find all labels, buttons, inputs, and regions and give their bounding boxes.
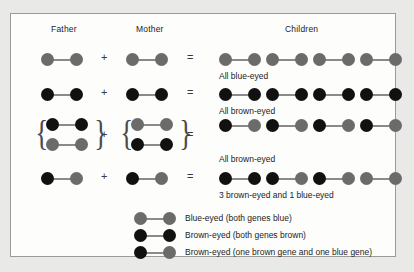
allele-brown-left (219, 88, 232, 101)
child-gene-pair (360, 172, 402, 185)
gene-connector (371, 125, 391, 127)
allele-brown-left (313, 119, 326, 132)
allele-brown-right (160, 138, 173, 151)
allele-blue-right (75, 138, 88, 151)
allele-blue-left (41, 53, 54, 66)
legend-item-label: Brown-eyed (both genes brown) (185, 230, 306, 240)
mother-gene-pair (126, 172, 168, 185)
gene-connector (230, 125, 250, 127)
allele-blue-right (70, 172, 83, 185)
child-gene-pair (360, 119, 402, 132)
figure-frame: Father Mother Children +=All blue-eyed+=… (10, 13, 396, 257)
allele-blue-left (46, 138, 59, 151)
allele-blue-left (360, 172, 373, 185)
allele-blue-right (70, 53, 83, 66)
allele-brown-left (131, 138, 144, 151)
allele-blue-right (295, 53, 308, 66)
allele-blue-right (389, 53, 402, 66)
child-gene-pair (313, 119, 355, 132)
row-caption: All brown-eyed (219, 106, 275, 116)
allele-brown-left (313, 172, 326, 185)
child-gene-pair (360, 88, 402, 101)
child-gene-pair (266, 172, 308, 185)
father-gene-pair (46, 118, 88, 131)
allele-brown-left (219, 119, 232, 132)
gene-connector (230, 94, 250, 96)
father-gene-pair (41, 88, 83, 101)
allele-brown-left (41, 172, 54, 185)
mother-braced-group: {} (120, 117, 192, 153)
allele-brown-left (360, 119, 373, 132)
allele-brown-right (155, 88, 168, 101)
mother-gene-pair (131, 138, 173, 151)
child-gene-pair (219, 172, 261, 185)
allele-brown-right (248, 88, 261, 101)
child-gene-pair (266, 53, 308, 66)
gene-connector (230, 178, 250, 180)
allele-brown-left (126, 88, 139, 101)
allele-brown-left (126, 172, 139, 185)
father-braced-group: {} (35, 117, 107, 153)
column-header-mother: Mother (136, 24, 164, 34)
allele-blue-right (163, 212, 176, 225)
allele-brown-left (266, 172, 279, 185)
gene-connector (277, 178, 297, 180)
mother-gene-pair (126, 53, 168, 66)
allele-brown-right (75, 118, 88, 131)
allele-brown-left (313, 88, 326, 101)
allele-blue-right (160, 118, 173, 131)
allele-blue-right (248, 53, 261, 66)
equals-operator: = (187, 52, 193, 63)
gene-connector (142, 144, 162, 146)
legend-gene-pair (134, 212, 176, 225)
mother-gene-pair (131, 118, 173, 131)
allele-brown-left (41, 88, 54, 101)
father-gene-pair (46, 138, 88, 151)
allele-blue-right (248, 119, 261, 132)
row-caption: All blue-eyed (219, 71, 268, 81)
column-header-father: Father (51, 24, 77, 34)
allele-brown-left (219, 172, 232, 185)
gene-connector (145, 218, 165, 220)
legend-item: Brown-eyed (one brown gene and one blue … (134, 244, 396, 261)
gene-connector (57, 144, 77, 146)
allele-brown-right (295, 88, 308, 101)
gene-connector (277, 59, 297, 61)
allele-brown-left (134, 229, 147, 242)
gene-connector (324, 178, 344, 180)
gene-connector (277, 125, 297, 127)
child-gene-pair (219, 88, 261, 101)
allele-blue-left (360, 53, 373, 66)
gene-connector (230, 59, 250, 61)
allele-blue-left (313, 53, 326, 66)
legend-item: Brown-eyed (both genes brown) (134, 227, 396, 244)
row-caption: 3 brown-eyed and 1 blue-eyed (219, 190, 334, 200)
gene-connector (57, 124, 77, 126)
gene-connector (145, 235, 165, 237)
gene-connector (52, 59, 72, 61)
allele-blue-right (163, 246, 176, 259)
child-gene-pair (266, 119, 308, 132)
allele-blue-right (389, 119, 402, 132)
allele-blue-right (389, 172, 402, 185)
allele-blue-left (131, 118, 144, 131)
legend: Blue-eyed (both genes blue)Brown-eyed (b… (134, 210, 396, 261)
column-header-children: Children (285, 24, 318, 34)
gene-connector (52, 94, 72, 96)
allele-brown-right (342, 88, 355, 101)
legend-item-label: Blue-eyed (both genes blue) (185, 213, 292, 223)
gene-connector (324, 94, 344, 96)
row-caption: All brown-eyed (219, 154, 275, 164)
child-gene-pair (313, 88, 355, 101)
child-gene-pair (266, 88, 308, 101)
allele-brown-right (248, 172, 261, 185)
mother-gene-pair (126, 88, 168, 101)
gene-connector (52, 178, 72, 180)
allele-blue-right (342, 172, 355, 185)
gene-connector (137, 59, 157, 61)
gene-connector (371, 59, 391, 61)
child-gene-pair (360, 53, 402, 66)
allele-blue-right (342, 53, 355, 66)
allele-brown-left (266, 119, 279, 132)
gene-connector (371, 94, 391, 96)
